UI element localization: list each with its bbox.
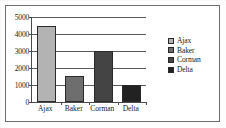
- x-axis-label-delta: Delta: [123, 104, 139, 113]
- x-tick: [61, 102, 62, 105]
- legend-swatch-icon: [168, 38, 174, 44]
- legend-swatch-icon: [168, 47, 174, 53]
- bar-corman: [94, 51, 113, 102]
- legend-label: Corman: [177, 55, 201, 64]
- legend-item-delta: Delta: [168, 65, 201, 75]
- y-tick-2000: [29, 68, 32, 69]
- x-axis-label-baker: Baker: [65, 104, 83, 113]
- y-axis-tick-label: 1000: [15, 81, 29, 90]
- gridline-5000: [32, 17, 146, 18]
- legend-label: Ajax: [177, 36, 191, 45]
- x-tick: [146, 102, 147, 105]
- y-tick-3000: [29, 51, 32, 52]
- plot-area: [31, 17, 146, 103]
- bar-delta: [122, 85, 141, 102]
- legend-swatch-icon: [168, 57, 174, 63]
- legend-item-ajax: Ajax: [168, 36, 201, 46]
- legend-label: Baker: [177, 46, 194, 55]
- y-axis-tick-label: 4000: [15, 30, 29, 39]
- y-tick-5000: [29, 17, 32, 18]
- y-tick-1000: [29, 85, 32, 86]
- y-tick-4000: [29, 34, 32, 35]
- chart-legend: AjaxBakerCormanDelta: [168, 36, 201, 74]
- legend-item-corman: Corman: [168, 55, 201, 65]
- legend-swatch-icon: [168, 67, 174, 73]
- x-tick: [118, 102, 119, 105]
- legend-label: Delta: [177, 65, 193, 74]
- y-axis-tick-label: 3000: [15, 47, 29, 56]
- y-axis-labels: 010002000300040005000: [0, 17, 29, 103]
- x-axis-label-corman: Corman: [90, 104, 114, 113]
- y-axis-tick-label: 2000: [15, 64, 29, 73]
- bar-ajax: [37, 26, 56, 103]
- legend-item-baker: Baker: [168, 46, 201, 56]
- y-axis-tick-label: 5000: [15, 13, 29, 22]
- bar-baker: [65, 76, 84, 102]
- screenshot-canvas: 010002000300040005000 AjaxBakerCormanDel…: [0, 0, 226, 128]
- x-axis-label-ajax: Ajax: [38, 104, 53, 113]
- y-tick-0: [29, 102, 32, 103]
